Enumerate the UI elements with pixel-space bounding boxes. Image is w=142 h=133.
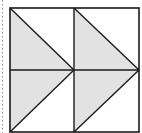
quadrant-triangle-diagram bbox=[0, 0, 142, 133]
